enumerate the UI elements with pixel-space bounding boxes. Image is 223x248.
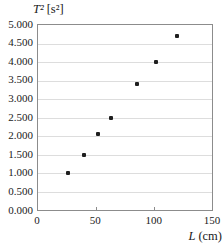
y-tick-label: 2.000	[0, 129, 33, 142]
data-point	[82, 153, 86, 157]
y-tick-label: 4.000	[0, 55, 33, 68]
scatter-chart: T²[s²] L(cm) 0.0000.5001.0001.5002.0002.…	[0, 0, 223, 248]
tick-mark	[96, 207, 97, 210]
gridline	[38, 173, 212, 174]
x-tick-label: 150	[187, 214, 223, 227]
gridline	[38, 81, 212, 82]
y-tick-label: 5.000	[0, 18, 33, 31]
y-tick-label: 3.500	[0, 73, 33, 86]
plot-area	[37, 24, 213, 211]
y-tick-label: 3.000	[0, 92, 33, 105]
data-point	[135, 82, 139, 86]
tick-mark	[154, 207, 155, 210]
gridline	[38, 44, 212, 45]
chart-title-variable: T²	[33, 2, 44, 16]
data-point	[175, 34, 179, 38]
gridline	[38, 62, 212, 63]
x-axis-label-variable: L	[188, 229, 195, 243]
gridline	[38, 155, 212, 156]
y-tick-label: 4.500	[0, 36, 33, 49]
y-tick-label: 2.500	[0, 111, 33, 124]
gridline	[38, 118, 212, 119]
y-tick-label: 0.500	[0, 185, 33, 198]
data-point	[154, 60, 158, 64]
chart-title-unit: [s²]	[47, 2, 64, 16]
gridline	[38, 192, 212, 193]
data-point	[96, 132, 100, 136]
gridline	[38, 99, 212, 100]
y-tick-label: 1.000	[0, 166, 33, 179]
gridline	[38, 136, 212, 137]
data-point	[66, 171, 70, 175]
chart-title: T²[s²]	[33, 2, 64, 16]
data-point	[109, 116, 113, 120]
x-tick-label: 0	[12, 214, 62, 227]
x-tick-label: 100	[129, 214, 179, 227]
x-tick-label: 50	[70, 214, 120, 227]
y-tick-label: 1.500	[0, 148, 33, 161]
x-axis-label: L(cm)	[188, 229, 222, 243]
x-axis-label-unit: (cm)	[198, 229, 222, 243]
